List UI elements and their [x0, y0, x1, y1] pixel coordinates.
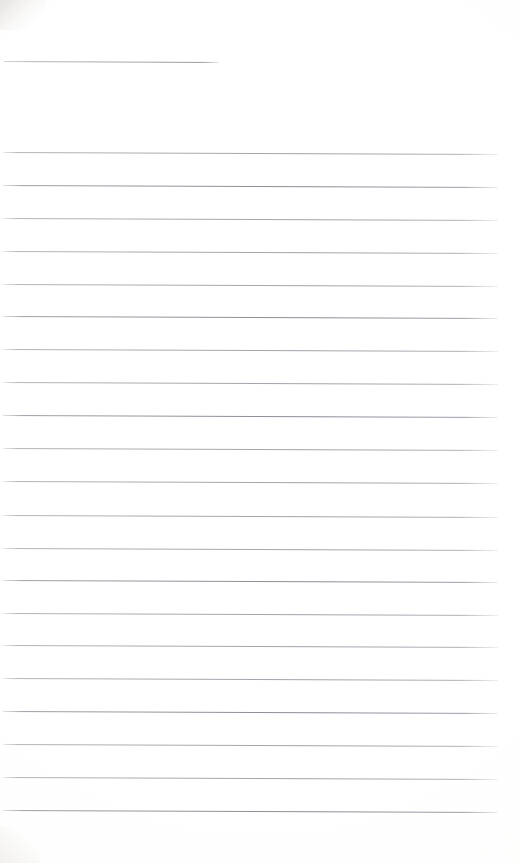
writing-area[interactable]: [0, 0, 521, 863]
scanned-page: [0, 0, 521, 863]
